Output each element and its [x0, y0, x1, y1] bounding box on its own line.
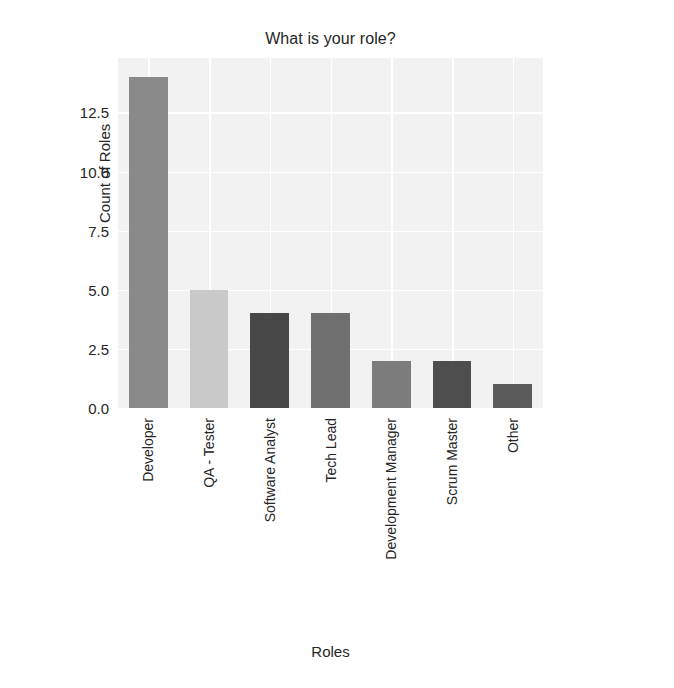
- plot-area: 0.02.55.07.510.012.5 DeveloperQA - Teste…: [118, 58, 543, 408]
- y-tick-label: 0.0: [88, 400, 109, 417]
- x-tick-label: Scrum Master: [444, 418, 460, 505]
- gridline-vertical: [391, 58, 393, 408]
- x-tick-label: Developer: [140, 418, 156, 482]
- y-tick-label: 12.5: [80, 104, 109, 121]
- x-tick-label: Software Analyst: [262, 418, 278, 522]
- x-tick-label: Other: [505, 418, 521, 453]
- x-tick-label: Development Manager: [383, 418, 399, 560]
- gridline-vertical: [452, 58, 454, 408]
- bar: [372, 361, 411, 408]
- x-tick-label: QA - Tester: [201, 418, 217, 488]
- bar: [129, 77, 168, 408]
- gridline-horizontal: [118, 408, 543, 410]
- y-axis-title: Count of Roles: [96, 124, 113, 223]
- y-tick-label: 2.5: [88, 340, 109, 357]
- bar: [190, 290, 229, 408]
- chart-title: What is your role?: [118, 30, 543, 48]
- bar: [250, 313, 289, 408]
- y-tick-label: 7.5: [88, 222, 109, 239]
- bar: [433, 361, 472, 408]
- gridline-vertical: [513, 58, 515, 408]
- chart-figure: What is your role? 0.02.55.07.510.012.5 …: [0, 0, 674, 688]
- x-axis-title: Roles: [118, 643, 543, 660]
- x-tick-label: Tech Lead: [323, 418, 339, 483]
- y-tick-label: 5.0: [88, 281, 109, 298]
- bar: [493, 384, 532, 408]
- bar: [311, 313, 350, 408]
